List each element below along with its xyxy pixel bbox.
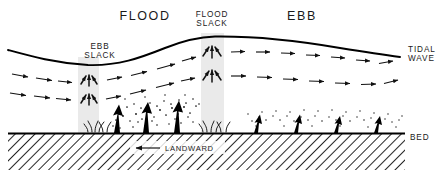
flood-slack-label-line2: SLACK <box>196 19 227 28</box>
flood-slack-label: FLOOD SLACK <box>196 10 229 28</box>
flow-arrow-low-ebb-2 <box>257 77 272 78</box>
flow-arrow-low-ebb-6 <box>361 84 376 85</box>
flow-arrow-low-ebb-3 <box>283 79 298 80</box>
ebb-slack-label-line2: SLACK <box>84 51 115 60</box>
phase-label-ebb: EBB <box>287 9 317 23</box>
flow-arrow-low-flood-1 <box>106 96 121 99</box>
resuspension-arrow-1 <box>113 105 123 134</box>
flow-arrow-low-left-2 <box>34 96 50 98</box>
flow-arrow-flood-3 <box>157 64 175 69</box>
flow-arrow-ebb-5 <box>331 57 345 58</box>
tidal-wave-label: TIDAL WAVE <box>408 45 436 63</box>
flow-arrow-low-left-3 <box>56 99 71 101</box>
diagram-canvas: FLOOD EBB EBB SLACK FLOOD SLACK TIDAL WA… <box>0 0 440 179</box>
flow-arrow-ebb-6 <box>356 60 370 61</box>
ebb-slack-label-line1: EBB <box>90 42 109 51</box>
tidal-wave-label-line2: WAVE <box>408 54 435 63</box>
flow-arrow-flood-4 <box>182 57 196 61</box>
resuspension-arrow-3 <box>173 101 184 134</box>
flow-arrow-low-flood-3 <box>156 83 174 88</box>
phase-label-flood: FLOOD <box>119 9 170 23</box>
flow-arrow-ebb-1 <box>231 52 245 53</box>
bedload-arrow-4 <box>374 116 382 133</box>
flow-arrow-low-left-1 <box>10 93 26 96</box>
ebb-slack-label: EBB SLACK <box>84 42 115 60</box>
bedload-arrow-group <box>254 115 382 134</box>
tidal-wave-label-line1: TIDAL <box>408 45 436 54</box>
sediment-cloud-flood <box>112 94 200 129</box>
flow-arrow-low-flood-2 <box>130 90 146 94</box>
flow-arrow-low-ebb-4 <box>309 81 324 82</box>
flow-arrow-left-2 <box>36 78 52 81</box>
flood-slack-label-line1: FLOOD <box>196 10 229 19</box>
flow-arrow-ebb-4 <box>306 55 320 56</box>
resuspension-arrow-group <box>113 101 183 134</box>
bedload-arrow-1 <box>254 115 262 134</box>
bed-label: BED <box>410 133 430 142</box>
flow-arrow-low-ebb-7 <box>384 80 398 84</box>
flow-arrow-low-flood-4 <box>181 78 195 81</box>
flow-arrow-left-1 <box>12 74 28 77</box>
flow-arrow-flood-2 <box>131 72 147 76</box>
flow-arrow-ebb-3 <box>281 53 295 54</box>
tidal-flow-diagram: FLOOD EBB EBB SLACK FLOOD SLACK TIDAL WA… <box>0 0 440 179</box>
bedload-arrow-3 <box>334 116 342 133</box>
flow-arrow-left-3 <box>58 81 72 83</box>
flow-arrow-low-ebb-5 <box>335 83 350 84</box>
resuspension-arrow-2 <box>142 102 153 133</box>
flow-arrow-ebb-7 <box>379 61 393 64</box>
landward-label: LANDWARD <box>165 144 214 153</box>
flow-arrow-flood-1 <box>107 77 122 80</box>
